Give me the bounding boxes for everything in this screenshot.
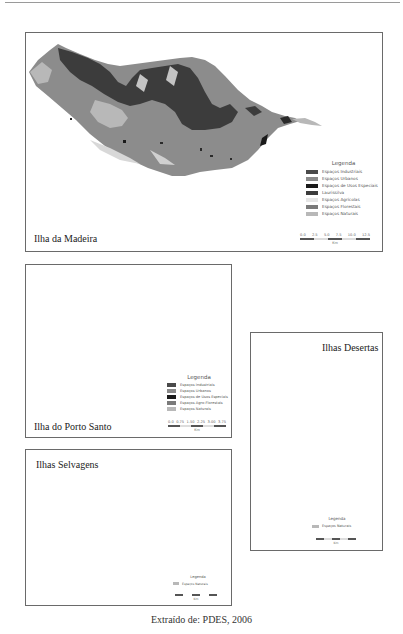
scale-tick: 10.0 (348, 233, 356, 237)
legend-item: Espaços Urbanos (306, 175, 381, 182)
scale-tick: 0.0 (168, 420, 174, 424)
scale-tick: 5.0 (324, 233, 330, 237)
scale-tick: 2.5 (312, 233, 318, 237)
scale-tick: 0.75 (176, 420, 184, 424)
scale-tick: 3.00 (208, 420, 216, 424)
scale-tick: 1.50 (187, 420, 195, 424)
scale-tick: 7.5 (336, 233, 342, 237)
legend-label: Espaços Urbanos (180, 389, 211, 393)
legend-label: Espaços Naturais (180, 407, 211, 411)
scale-tick: 0.0 (300, 233, 306, 237)
legend-swatch (306, 191, 318, 195)
madeira-scale-bar: 0.0 2.5 5.0 7.5 10.0 12.5 Km (300, 233, 370, 245)
legend-label: Espaços de Usos Especiais (180, 395, 228, 399)
porto-santo-title: Ilha do Porto Santo (34, 421, 112, 432)
scale-tick: 3.75 (218, 420, 226, 424)
scale-unit: Km (300, 241, 370, 245)
legend-item: Espaços Naturais (312, 523, 362, 529)
selvagens-legend-title: Legenda (173, 575, 223, 579)
legend-swatch (167, 401, 176, 405)
scale-unit: Km (175, 597, 217, 601)
scale-unit: Km (168, 428, 226, 432)
madeira-legend-title: Legenda (306, 160, 381, 166)
desertas-title: Ilhas Desertas (322, 342, 378, 353)
legend-item: Espaços Agrícolas (306, 196, 381, 203)
legend-swatch (167, 389, 176, 393)
legend-label: Espaços Florestais (322, 204, 361, 209)
legend-swatch (306, 205, 318, 209)
selvagens-legend: Legenda Espaços Naturais (173, 575, 223, 586)
madeira-island-shape (29, 44, 322, 176)
legend-item: Espaços de Usos Especiais (306, 182, 381, 189)
legend-label: Espaços Agrícolas (322, 197, 360, 202)
legend-label: Espaços Agro-Florestais (180, 401, 223, 405)
legend-item: Espaços Florestais (306, 203, 381, 210)
figure-caption: Extraído de: PDES, 2006 (0, 614, 403, 625)
selvagens-title: Ilhas Selvagens (36, 459, 99, 470)
legend-swatch (312, 525, 319, 528)
porto-santo-legend-title: Legenda (167, 374, 231, 380)
madeira-legend: Legenda Espaços Industriais Espaços Urba… (306, 160, 381, 217)
legend-label: Espaços Naturais (322, 524, 351, 528)
selvagens-scale-bar: Km (175, 593, 217, 601)
legend-swatch (167, 395, 176, 399)
porto-santo-scale-bar: 0.0 0.75 1.50 2.25 3.00 3.75 Km (168, 420, 226, 432)
legend-item: Espaços Naturais (306, 210, 381, 217)
legend-label: Espaços Naturais (182, 582, 208, 586)
desertas-legend: Legenda Espaços Naturais (312, 516, 362, 529)
porto-santo-legend: Legenda Espaços Industriais Espaços Urba… (167, 374, 231, 412)
legend-item: Espaços Naturais (173, 581, 223, 586)
legend-label: Espaços de Usos Especiais (322, 183, 378, 188)
legend-label: Espaços Naturais (322, 211, 358, 216)
legend-swatch (306, 212, 318, 216)
legend-swatch (306, 198, 318, 202)
legend-item: Espaços Naturais (167, 406, 231, 412)
legend-label: Laurissilva (322, 190, 344, 195)
legend-swatch (306, 184, 318, 188)
legend-swatch (167, 383, 176, 387)
legend-label: Espaços Industriais (180, 383, 215, 387)
legend-swatch (306, 170, 318, 174)
legend-swatch (306, 177, 318, 181)
scale-tick: 12.5 (362, 233, 370, 237)
legend-swatch (167, 407, 176, 411)
madeira-title: Ilha da Madeira (34, 233, 97, 244)
legend-item: Espaços Industriais (306, 168, 381, 175)
scale-tick: 2.25 (197, 420, 205, 424)
legend-label: Espaços Industriais (322, 169, 362, 174)
desertas-legend-title: Legenda (312, 516, 362, 521)
legend-label: Espaços Urbanos (322, 176, 358, 181)
scale-unit: Km (316, 541, 356, 545)
legend-item: Laurissilva (306, 189, 381, 196)
legend-swatch (173, 582, 179, 585)
desertas-scale-bar: Km (316, 537, 356, 545)
